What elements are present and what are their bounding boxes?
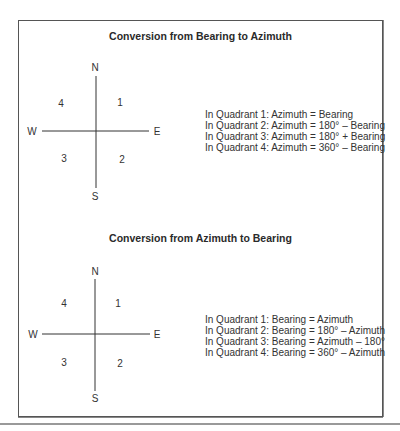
rule-quadrant-1: In Quadrant 1: Bearing = Azimuth <box>205 314 385 325</box>
rule-quadrant-1: In Quadrant 1: Azimuth = Bearing <box>205 109 385 120</box>
compass-axes <box>0 0 200 420</box>
rules-azimuth-to-bearing: In Quadrant 1: Bearing = Azimuth In Quad… <box>205 314 385 358</box>
rule-quadrant-3: In Quadrant 3: Bearing = Azimuth – 180° <box>205 336 385 347</box>
rule-quadrant-4: In Quadrant 4: Bearing = 360° – Azimuth <box>205 347 385 358</box>
rule-quadrant-3: In Quadrant 3: Azimuth = 180° + Bearing <box>205 131 385 142</box>
rule-quadrant-2: In Quadrant 2: Azimuth = 180° – Bearing <box>205 120 385 131</box>
west-label: W <box>28 329 37 340</box>
caption-divider <box>0 423 400 425</box>
rule-quadrant-4: In Quadrant 4: Azimuth = 360° – Bearing <box>205 142 385 153</box>
quadrant-2-label: 2 <box>117 358 123 369</box>
quadrant-4-label: 4 <box>61 298 67 309</box>
south-label: S <box>92 393 99 404</box>
east-label: E <box>154 329 161 340</box>
north-label: N <box>91 266 98 277</box>
quadrant-3-label: 3 <box>61 357 67 368</box>
compass-azimuth-to-bearing: N S W E 4 1 3 2 <box>0 0 200 150</box>
rule-quadrant-2: In Quadrant 2: Bearing = 180° – Azimuth <box>205 325 385 336</box>
quadrant-1-label: 1 <box>115 298 121 309</box>
rules-bearing-to-azimuth: In Quadrant 1: Azimuth = Bearing In Quad… <box>205 109 385 153</box>
